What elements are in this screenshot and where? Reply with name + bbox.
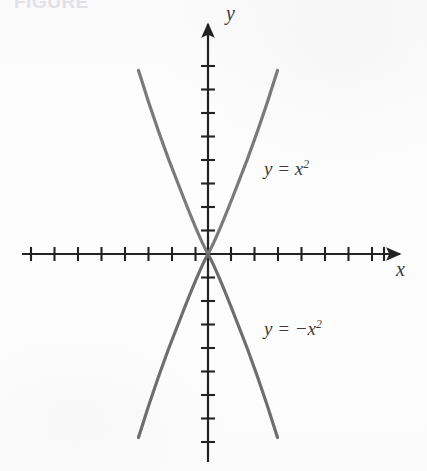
figure-container: FIGURE	[0, 0, 427, 471]
curve-label-y-equals-x-squared: y = x2	[264, 158, 309, 180]
x-axis-label: x	[396, 258, 405, 281]
curve-label-up-text: y = x	[264, 158, 303, 179]
curve-label-down-exponent: 2	[316, 318, 322, 331]
coordinate-plot	[0, 0, 427, 471]
y-axis-label: y	[226, 2, 235, 25]
curve-label-y-equals-negative-x-squared: y = −x2	[264, 318, 322, 340]
curve-label-up-exponent: 2	[303, 158, 309, 171]
curve-label-down-text: y = −x	[264, 318, 316, 339]
